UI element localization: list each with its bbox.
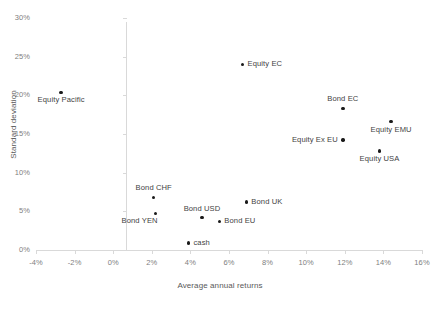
data-point-label: Equity EMU [371,125,412,134]
x-tick-mark [383,250,384,254]
data-point-label: Equity Ex EU [292,135,338,144]
data-point[interactable] [341,138,344,141]
data-point[interactable] [187,241,190,244]
x-tick-mark [345,250,346,254]
data-point-label: cash [193,238,209,247]
x-tick-label: 8% [253,258,283,267]
y-tick-label: 5% [2,206,30,215]
x-tick-mark [306,250,307,254]
data-point-label: Bond EC [327,94,358,103]
x-tick-label: 2% [137,258,167,267]
y-tick-mark [123,18,127,19]
x-tick-label: 0% [98,258,128,267]
x-tick-mark [268,250,269,254]
plot-area: -4%-2%0%2%4%6%8%10%12%14%16% 0%5%10%15%2… [36,18,422,250]
x-tick-label: 12% [330,258,360,267]
data-point-label: Bond USD [184,204,221,213]
data-point[interactable] [218,220,221,223]
data-point-label: Bond YEN [122,216,158,225]
data-point[interactable] [152,196,155,199]
x-tick-label: 16% [407,258,437,267]
y-tick-label: 25% [2,52,30,61]
data-point-label: Equity USA [360,154,400,163]
data-point[interactable] [59,91,62,94]
data-point-label: Equity EC [248,59,283,68]
x-tick-label: -2% [60,258,90,267]
y-tick-mark [123,250,127,251]
y-tick-mark [123,173,127,174]
x-tick-label: 10% [291,258,321,267]
scatter-chart: -4%-2%0%2%4%6%8%10%12%14%16% 0%5%10%15%2… [0,0,440,309]
x-tick-label: 14% [368,258,398,267]
y-axis-title: Standard deviation [9,65,18,185]
data-point[interactable] [200,216,203,219]
data-point-label: Equity Pacific [38,95,85,104]
y-tick-mark [123,211,127,212]
y-tick-label: 30% [2,13,30,22]
y-tick-mark [123,95,127,96]
data-point[interactable] [378,149,381,152]
data-point[interactable] [341,107,344,110]
data-point[interactable] [245,200,248,203]
x-tick-mark [190,250,191,254]
data-point-label: Bond EU [224,216,255,225]
x-axis-title: Average annual returns [0,281,440,290]
data-point[interactable] [389,120,392,123]
y-tick-mark [123,57,127,58]
x-tick-label: 4% [175,258,205,267]
data-point[interactable] [241,63,244,66]
data-point-label: Bond CHF [136,183,172,192]
x-tick-mark [36,250,37,254]
x-tick-mark [152,250,153,254]
y-tick-label: 0% [2,245,30,254]
x-tick-mark [422,250,423,254]
x-tick-label: -4% [21,258,51,267]
x-tick-mark [229,250,230,254]
x-tick-mark [75,250,76,254]
x-tick-mark [113,250,114,254]
data-point-label: Bond UK [251,197,282,206]
x-tick-label: 6% [214,258,244,267]
y-tick-mark [123,134,127,135]
